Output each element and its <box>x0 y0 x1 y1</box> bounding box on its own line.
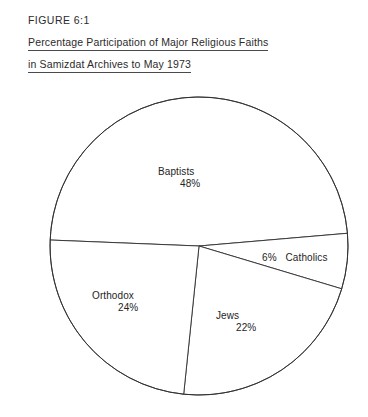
slice-name-baptists: Baptists <box>158 167 200 178</box>
pie-slice-group <box>50 97 348 395</box>
figure-container: FIGURE 6:1 Percentage Participation of M… <box>0 0 368 417</box>
slice-value-baptists: 48% <box>180 179 200 190</box>
pie-chart <box>0 0 368 417</box>
slice-value-catholics: 6% <box>262 252 277 263</box>
slice-value-orthodox: 24% <box>118 303 138 314</box>
slice-name-jews: Jews <box>216 311 256 322</box>
slice-label-baptists: Baptists 48% <box>158 167 200 189</box>
slice-value-jews: 22% <box>236 323 256 334</box>
slice-name-catholics: Catholics <box>286 252 328 263</box>
slice-label-orthodox: Orthodox 24% <box>92 291 138 313</box>
slice-name-orthodox: Orthodox <box>92 291 138 302</box>
slice-label-jews: Jews 22% <box>216 311 256 333</box>
pie-slice-orthodox <box>50 240 199 394</box>
slice-label-catholics: 6% Catholics <box>262 253 328 264</box>
